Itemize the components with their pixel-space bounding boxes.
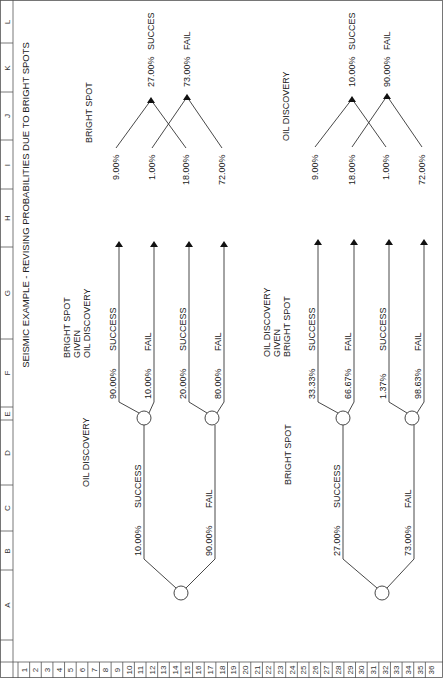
row-header-13[interactable]: 13 bbox=[159, 665, 168, 674]
row-header-29[interactable]: 29 bbox=[346, 665, 355, 674]
column-header-d[interactable]: D bbox=[3, 450, 12, 456]
terminal-triangle-icon bbox=[420, 239, 428, 245]
column-header-k[interactable]: K bbox=[3, 65, 12, 71]
leaf-prob: 20.00% bbox=[178, 368, 188, 399]
leaf-prob: 90.00% bbox=[108, 368, 118, 399]
row-header-36[interactable]: 36 bbox=[427, 665, 436, 674]
branch-label: SUCCESS bbox=[332, 464, 342, 508]
tree1-joint-label: BRIGHT SPOT bbox=[84, 82, 94, 143]
row-header-11[interactable]: 11 bbox=[136, 665, 145, 674]
joint-line bbox=[152, 97, 187, 148]
row-header-34[interactable]: 34 bbox=[404, 665, 413, 674]
column-header-h[interactable]: H bbox=[3, 215, 12, 221]
row-header-1[interactable]: 1 bbox=[20, 667, 29, 672]
leaf-label: SUCCESS bbox=[378, 307, 388, 351]
tree-bright-spot: BRIGHT SPOT 27.00% SUCCESS 73.00% FAIL O… bbox=[262, 12, 428, 600]
row-header-33[interactable]: 33 bbox=[392, 665, 401, 674]
joint-line bbox=[315, 99, 352, 147]
row-header-3[interactable]: 3 bbox=[43, 667, 52, 672]
row-header-25[interactable]: 25 bbox=[299, 665, 308, 674]
marginal-prob: 27.00% bbox=[146, 56, 156, 87]
row-header-8[interactable]: 8 bbox=[101, 667, 110, 672]
tree2-second-label: OIL DISCOVERY GIVEN BRIGHT SPOT bbox=[262, 285, 292, 357]
row-header-7[interactable]: 7 bbox=[90, 667, 99, 672]
joint-prob: 72.00% bbox=[217, 154, 227, 185]
leaf-prob: 66.67% bbox=[343, 368, 353, 399]
terminal-triangle-icon bbox=[314, 239, 322, 245]
marginal-label: SUCCES bbox=[347, 12, 357, 50]
row-header-15[interactable]: 15 bbox=[183, 665, 192, 674]
row-header-10[interactable]: 10 bbox=[125, 665, 134, 674]
row-header-4[interactable]: 4 bbox=[55, 667, 64, 672]
leaf-label: FAIL bbox=[343, 332, 353, 351]
column-header-j[interactable]: J bbox=[3, 114, 12, 118]
branch-label: FAIL bbox=[204, 489, 214, 508]
row-header-18[interactable]: 18 bbox=[218, 665, 227, 674]
branch-line bbox=[189, 247, 207, 413]
row-header-32[interactable]: 32 bbox=[381, 665, 390, 674]
row-header-2[interactable]: 2 bbox=[31, 667, 40, 672]
branch-prob: 90.00% bbox=[204, 525, 214, 556]
row-header-6[interactable]: 6 bbox=[78, 667, 87, 672]
marginal-label: FAIL bbox=[182, 31, 192, 50]
terminal-triangle-icon bbox=[185, 241, 193, 247]
branch-label: FAIL bbox=[403, 489, 413, 508]
branch-prob: 73.00% bbox=[403, 525, 413, 556]
row-header-16[interactable]: 16 bbox=[194, 665, 203, 674]
tree-oil-discovery: OIL DISCOVERY 10.00% SUCCESS 90.00% FAIL… bbox=[62, 12, 228, 600]
column-header-i[interactable]: I bbox=[3, 164, 12, 166]
column-header-b[interactable]: B bbox=[3, 548, 12, 553]
terminal-triangle-icon bbox=[183, 94, 191, 100]
terminal-triangle-icon bbox=[383, 93, 391, 99]
row-header-30[interactable]: 30 bbox=[357, 665, 366, 674]
joint-prob: 9.00% bbox=[310, 154, 320, 180]
terminal-triangle-icon bbox=[150, 241, 158, 247]
column-header-g[interactable]: G bbox=[3, 290, 12, 296]
tree2-joint-label: OIL DISCOVERY bbox=[281, 71, 291, 141]
row-header-23[interactable]: 23 bbox=[276, 665, 285, 674]
terminal-triangle-icon bbox=[350, 239, 358, 245]
tree2-root-label: BRIGHT SPOT bbox=[283, 424, 293, 485]
row-header-5[interactable]: 5 bbox=[66, 667, 75, 672]
row-header-31[interactable]: 31 bbox=[369, 665, 378, 674]
row-header-27[interactable]: 27 bbox=[322, 665, 331, 674]
joint-prob: 18.00% bbox=[181, 154, 191, 185]
joint-prob: 72.00% bbox=[417, 154, 427, 185]
spreadsheet-page: A B C D E F G H I J K L 1234567891011121… bbox=[0, 0, 443, 678]
row-header-12[interactable]: 12 bbox=[148, 665, 157, 674]
terminal-triangle-icon bbox=[220, 241, 228, 247]
row-header-35[interactable]: 35 bbox=[416, 665, 425, 674]
terminal-triangle-icon bbox=[348, 96, 356, 102]
leaf-label: SUCCESS bbox=[108, 307, 118, 351]
branch-line bbox=[119, 247, 139, 413]
row-header-21[interactable]: 21 bbox=[253, 665, 262, 674]
branch-line bbox=[318, 245, 338, 413]
column-header-c[interactable]: C bbox=[3, 505, 12, 511]
row-header-20[interactable]: 20 bbox=[241, 665, 250, 674]
column-header-e[interactable]: E bbox=[3, 411, 12, 416]
tree1-root-label: OIL DISCOVERY bbox=[81, 417, 91, 487]
row-header-19[interactable]: 19 bbox=[229, 665, 238, 674]
column-header-f[interactable]: F bbox=[3, 370, 12, 375]
branch-line bbox=[389, 245, 407, 413]
tree1-second-label: BRIGHT SPOT GIVEN OIL DISCOVERY bbox=[62, 288, 92, 358]
row-header-28[interactable]: 28 bbox=[334, 665, 343, 674]
row-header-14[interactable]: 14 bbox=[171, 665, 180, 674]
column-header-a[interactable]: A bbox=[3, 602, 12, 608]
row-header-17[interactable]: 17 bbox=[206, 665, 215, 674]
leaf-prob: 98.63% bbox=[413, 368, 423, 399]
marginal-label: FAIL bbox=[382, 31, 392, 50]
row-header-26[interactable]: 26 bbox=[311, 665, 320, 674]
leaf-prob: 1.37% bbox=[378, 373, 388, 399]
branch-success bbox=[343, 425, 377, 588]
branch-prob: 27.00% bbox=[332, 525, 342, 556]
chance-node bbox=[336, 411, 350, 425]
joint-line bbox=[352, 96, 387, 147]
branch-success bbox=[144, 425, 176, 588]
leaf-label: FAIL bbox=[143, 332, 153, 351]
column-header-l[interactable]: L bbox=[3, 19, 12, 24]
chance-node bbox=[205, 411, 219, 425]
row-header-9[interactable]: 9 bbox=[113, 667, 122, 672]
row-header-24[interactable]: 24 bbox=[288, 665, 297, 674]
row-header-22[interactable]: 22 bbox=[264, 665, 273, 674]
